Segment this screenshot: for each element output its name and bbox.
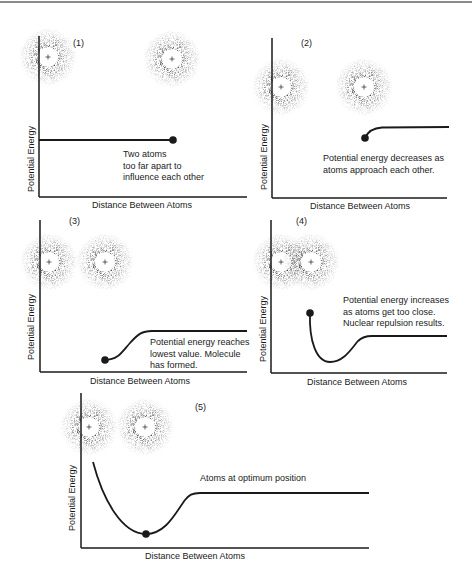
annotation-1: Two atoms too far apart to influence eac…	[123, 149, 204, 184]
annotation-line: Atoms at optimum position	[200, 473, 306, 485]
y-axis-label-4: Potential Energy	[258, 284, 268, 374]
panel-4-label: (4)	[296, 216, 307, 226]
annotation-line: Two atoms	[123, 149, 204, 161]
annotation-line: Nuclear repulsion results.	[343, 318, 449, 330]
panel-3-label: (3)	[69, 216, 80, 226]
atom-right	[143, 30, 201, 88]
annotation-5: Atoms at optimum position	[200, 473, 306, 485]
annotation-line: as atoms get too close.	[343, 307, 449, 319]
annotation-3: Potential energy reaches lowest value. M…	[150, 337, 250, 372]
atom-left	[19, 28, 77, 86]
annotation-line: influence each other	[123, 172, 204, 184]
annotation-line: Potential energy decreases as	[323, 153, 444, 165]
x-axis-label-1: Distance Between Atoms	[92, 200, 192, 210]
y-axis-label-3: Potential Energy	[26, 282, 36, 372]
panel-2-label: (2)	[301, 38, 312, 48]
annotation-line: lowest value. Molecule	[150, 349, 250, 361]
panel-5	[60, 393, 369, 548]
state-dot	[101, 356, 109, 364]
atom-right	[282, 233, 340, 291]
atom-left	[252, 58, 310, 116]
atom-right	[335, 58, 393, 116]
atom-right	[76, 233, 134, 291]
y-axis-label-1: Potential Energy	[26, 114, 36, 204]
atom-right	[116, 398, 174, 456]
x-axis-label-5: Distance Between Atoms	[145, 551, 245, 561]
annotation-line: has formed.	[150, 360, 250, 372]
atom-left	[60, 398, 118, 456]
y-axis-label-2: Potential Energy	[259, 112, 269, 202]
state-dot	[142, 530, 150, 538]
energy-curve	[365, 127, 449, 138]
state-dot	[306, 309, 314, 317]
annotation-line: atoms approach each other.	[323, 165, 444, 177]
annotation-2: Potential energy decreases as atoms appr…	[323, 153, 444, 176]
annotation-line: Potential energy increases	[343, 295, 449, 307]
panel-5-label: (5)	[195, 402, 206, 412]
x-axis-label-3: Distance Between Atoms	[90, 376, 190, 386]
annotation-line: too far apart to	[123, 161, 204, 173]
state-dot	[169, 136, 177, 144]
y-axis-label-5: Potential Energy	[67, 453, 77, 543]
annotation-4: Potential energy increases as atoms get …	[343, 295, 449, 330]
annotation-line: Potential energy reaches	[150, 337, 250, 349]
panel-1-label: (1)	[73, 38, 84, 48]
state-dot	[361, 134, 369, 142]
x-axis-label-4: Distance Between Atoms	[307, 377, 407, 387]
x-axis-label-2: Distance Between Atoms	[310, 201, 410, 211]
